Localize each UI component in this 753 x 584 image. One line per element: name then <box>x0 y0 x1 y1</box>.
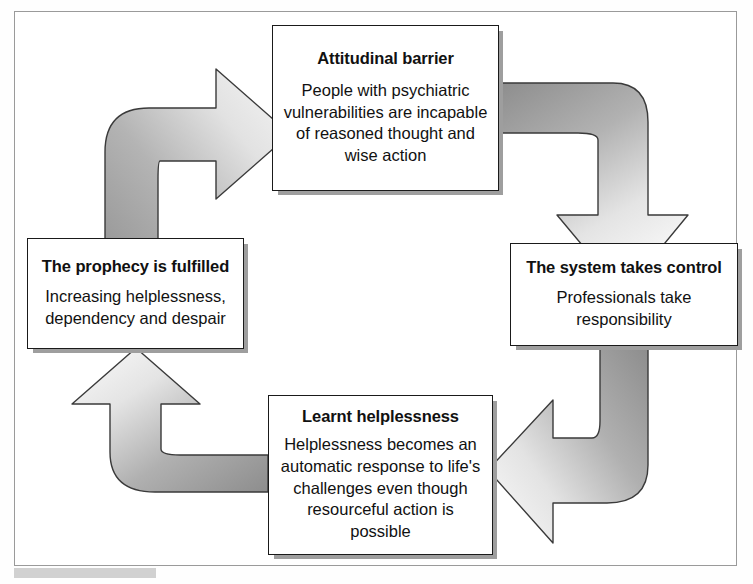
node-title: The prophecy is fulfilled <box>42 257 229 276</box>
node-learnt-helplessness: Learnt helplessness Helplessness becomes… <box>268 395 493 555</box>
arrow-system-to-learnt <box>488 348 648 543</box>
diagram-page: Attitudinal barrier People with psychiat… <box>0 0 753 584</box>
node-title: Learnt helplessness <box>302 407 459 426</box>
node-title: Attitudinal barrier <box>317 49 454 68</box>
node-body: Helplessness becomes an automatic respon… <box>269 434 492 544</box>
node-prophecy-is-fulfilled: The prophecy is fulfilled Increasing hel… <box>27 238 244 349</box>
node-system-takes-control: The system takes control Professionals t… <box>510 243 738 346</box>
node-body: Professionals take responsibility <box>511 287 737 331</box>
node-title: The system takes control <box>526 258 722 277</box>
node-attitudinal-barrier: Attitudinal barrier People with psychiat… <box>272 25 499 191</box>
arrow-learnt-to-prophecy <box>72 348 268 492</box>
node-body: Increasing helplessness, dependency and … <box>28 286 243 330</box>
node-body: People with psychiatric vulnerabilities … <box>273 80 498 168</box>
